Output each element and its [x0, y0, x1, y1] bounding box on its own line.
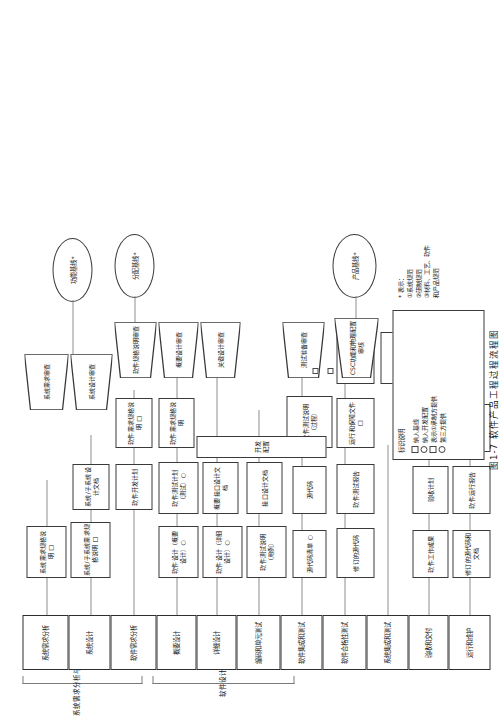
review-outline-design: 概要设计审查 — [158, 322, 198, 378]
square-glyph-icon — [411, 446, 418, 453]
figure-caption: 图1-7 软件产品工程过程流程图 — [486, 329, 498, 470]
legend-item-2: 表示①承制方提供 — [428, 317, 437, 453]
legend-title: 标识说明 — [397, 317, 407, 453]
baseline-marker-2 — [327, 368, 333, 374]
phase-header-coding-unit-test: 编码和单元测试 — [236, 615, 280, 670]
legend-item-label: 纳入开发配置 — [419, 407, 428, 443]
artifact-outline-interface-design-doc: 概要接口设计文档 — [202, 462, 238, 514]
artifact-software-test-desc-case: 软件测试说明（用例） — [246, 526, 286, 578]
artifact-subsystem-requirements-spec: 系统/子系统需求规格说明 □ — [70, 522, 110, 578]
note-header: * 表示： — [396, 245, 405, 298]
artifact-development-configuration: 开发配置 — [196, 436, 326, 458]
legend-item-1: 纳入开发配置 — [419, 317, 428, 453]
baseline-marker-1 — [312, 368, 318, 374]
phase-header-software-integration: 软件集成和测试 — [280, 615, 322, 670]
phase-header-software-qualification: 软件合格性测试 — [322, 615, 366, 670]
phase-header-outline-design: 概要设计 — [156, 615, 196, 670]
baseline-allocated: 分配基线* — [114, 234, 154, 298]
artifact-source-code-listing: 源代码清单 ○ — [292, 530, 326, 578]
artifact-software-work-products: 软件工作成果 — [412, 530, 448, 578]
note-line-0: ①系统规范 — [405, 245, 414, 298]
artifact-system-requirements-spec: 系统需求规格说明 □ — [26, 526, 66, 578]
note-line-1: ②研制规范 — [414, 245, 423, 298]
phase-header-acceptance-delivery: 验收和交付 — [408, 615, 448, 670]
artifact-software-requirements-spec-marked: 软件需求规格说明 □ — [115, 398, 152, 448]
phase-header-operation-maintenance: 运行和维护 — [448, 615, 490, 670]
connector-fca-functional-baseline — [72, 300, 73, 354]
group-bracket-system — [22, 676, 142, 684]
artifact-software-requirements-spec: 软件需求规格说明 — [158, 398, 194, 448]
circle-glyph-icon — [420, 446, 427, 453]
artifact-software-operation-report: 软件运行报告 — [452, 466, 490, 514]
note-line-2: ③材料、工艺、软件 — [422, 245, 431, 298]
note-line-3: 和产品规范 — [431, 245, 440, 298]
review-label: 概要设计审查 — [158, 322, 198, 378]
review-csc-fca-pca: CSC功能和物理配置审核 — [334, 318, 378, 378]
circle-glyph-icon — [438, 446, 445, 453]
phase-header-system-design: 系统设计 — [68, 615, 110, 670]
artifact-acceptance-plan: 验收计划 — [412, 466, 448, 514]
phase-header-system-integration: 系统集成和测试 — [366, 615, 408, 670]
review-system-design: 系统设计审查 — [70, 354, 112, 410]
artifact-software-dev-plan: 软件开发计划 — [115, 464, 152, 510]
artifact-software-test-report: 软件测试报告 — [336, 464, 374, 514]
asterisk-note: * 表示： ①系统规范 ②研制规范 ③材料、工艺、软件 和产品规范 — [396, 245, 440, 298]
artifact-interface-design-doc: 接口设计文档 — [246, 462, 282, 514]
review-label: 系统需求审查 — [24, 354, 68, 410]
review-label: 软件规格说明审查 — [114, 322, 156, 378]
phase-header-software-requirements: 软件需求分析 — [110, 615, 156, 670]
review-software-spec: 软件规格说明审查 — [114, 322, 156, 378]
review-label: 系统设计审查 — [70, 354, 112, 410]
artifact-software-design-detailed: 软件设计（详细设计）○ — [202, 526, 242, 578]
review-label: CSC功能和物理配置审核 — [334, 318, 378, 378]
legend-item-label: 第三方提供 — [437, 413, 446, 443]
baseline-functional: 功能基线* — [52, 238, 92, 302]
artifact-subsystem-design-doc: 系统/子系统设计文档 — [72, 464, 109, 510]
artifact-operation-support-doc: 运行和保障文件 □ — [336, 398, 374, 448]
artifact-software-test-plan: 软件测试计划（测试）○ — [158, 462, 198, 514]
legend-item-label: 纳入基线 — [410, 419, 419, 443]
legend-item-3: 第三方提供 — [437, 317, 446, 453]
connector-csc-product-baseline — [355, 296, 356, 318]
artifact-source-code: 源代码 — [292, 466, 326, 514]
review-system-requirements: 系统需求审查 — [24, 354, 68, 410]
lane-line-9 — [387, 445, 388, 615]
square-glyph-icon — [429, 446, 436, 453]
review-label: 关键设计审查 — [200, 322, 240, 378]
legend-panel: 标识说明 纳入基线 纳入开发配置 表示①承制方提供 第三方提供 — [392, 310, 484, 460]
legend-item-0: 纳入基线 — [410, 317, 419, 453]
artifact-revised-source-code: 修订的源代码 — [336, 528, 374, 578]
phase-header-detailed-design: 详细设计 — [196, 615, 236, 670]
connector-spec-allocated-baseline — [134, 296, 135, 322]
legend-item-label: 表示①承制方提供 — [428, 396, 437, 443]
artifact-software-design-outline: 软件设计（概要设计）○ — [158, 526, 198, 578]
baseline-product: 产品基线* — [332, 234, 376, 298]
artifact-revised-code-and-docs: 修订的源代码和文档 — [452, 530, 490, 578]
review-critical-design: 关键设计审查 — [200, 322, 240, 378]
phase-header-system-requirements: 系统需求分析 — [22, 615, 68, 670]
